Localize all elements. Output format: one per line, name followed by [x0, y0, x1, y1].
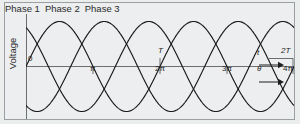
tick-label-2T: 2T [281, 46, 290, 55]
tick-label-3pi: 3π [222, 64, 232, 73]
tick-label-2pi: 2π [155, 64, 165, 73]
phase-label-1: Phase 1 [5, 3, 40, 14]
axis-symbol-t: t [257, 48, 259, 57]
tick-label-T: T [158, 46, 163, 55]
tick-label-4pi: 4π [283, 64, 293, 73]
tick-label-origin: 0 [28, 54, 32, 63]
phase-label-3: Phase 3 [85, 3, 120, 14]
phase-legend: Phase 1 Phase 2 Phase 3 [5, 3, 120, 14]
y-axis-title: Voltage [7, 26, 18, 82]
tick-label-pi: π [90, 64, 96, 73]
three-phase-voltage-figure: Phase 1 Phase 2 Phase 3 Voltage [0, 0, 300, 124]
axis-symbol-theta: θ [257, 64, 261, 73]
phase-label-2: Phase 2 [45, 3, 80, 14]
